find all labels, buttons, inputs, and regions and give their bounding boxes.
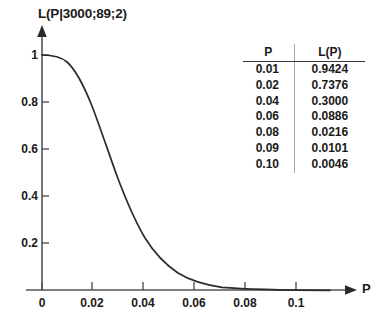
cell-lp: 0.7376	[294, 78, 365, 94]
table-row: 0.010.9424	[243, 62, 365, 78]
table-row: 0.020.7376	[243, 78, 365, 94]
cell-lp: 0.0101	[294, 141, 365, 157]
y-tick-label: 0.8	[21, 95, 38, 109]
y-tick-label: 1	[31, 48, 38, 62]
cell-p: 0.09	[243, 141, 294, 157]
table-row: 0.090.0101	[243, 141, 365, 157]
cell-p: 0.06	[243, 109, 294, 125]
x-tick-label: 0.06	[182, 296, 205, 310]
x-tick-label: 0.1	[288, 296, 305, 310]
cell-p: 0.10	[243, 157, 294, 173]
x-tick-label: 0	[39, 296, 46, 310]
x-tick-label: 0.04	[131, 296, 154, 310]
cell-lp: 0.0046	[294, 157, 365, 173]
y-tick-label: 0.2	[21, 236, 38, 250]
column-header-lp: L(P)	[294, 44, 365, 62]
cell-lp: 0.0886	[294, 109, 365, 125]
x-axis-name-label: P	[362, 281, 371, 296]
table-header-row: P L(P)	[243, 44, 365, 62]
y-tick-label: 0.6	[21, 142, 38, 156]
y-axis-ticks	[42, 55, 49, 243]
cell-p: 0.01	[243, 62, 294, 78]
table-row: 0.040.3000	[243, 94, 365, 110]
y-tick-label: 0.4	[21, 189, 38, 203]
cell-p: 0.02	[243, 78, 294, 94]
cell-lp: 0.0216	[294, 125, 365, 141]
cell-p: 0.08	[243, 125, 294, 141]
x-axis-arrow-icon	[345, 285, 357, 295]
x-tick-label: 0.08	[233, 296, 256, 310]
cell-lp: 0.9424	[294, 62, 365, 78]
x-tick-label: 0.02	[80, 296, 103, 310]
table-row: 0.080.0216	[243, 125, 365, 141]
table-row: 0.060.0886	[243, 109, 365, 125]
column-header-p: P	[243, 44, 294, 62]
likelihood-function-figure: L(P|3000;89;2) 1 0.8 0	[0, 0, 378, 333]
cell-lp: 0.3000	[294, 94, 365, 110]
values-table: P L(P) 0.010.94240.020.73760.040.30000.0…	[243, 44, 365, 173]
y-axis-arrow-icon	[37, 25, 47, 37]
cell-p: 0.04	[243, 94, 294, 110]
table-row: 0.100.0046	[243, 157, 365, 173]
